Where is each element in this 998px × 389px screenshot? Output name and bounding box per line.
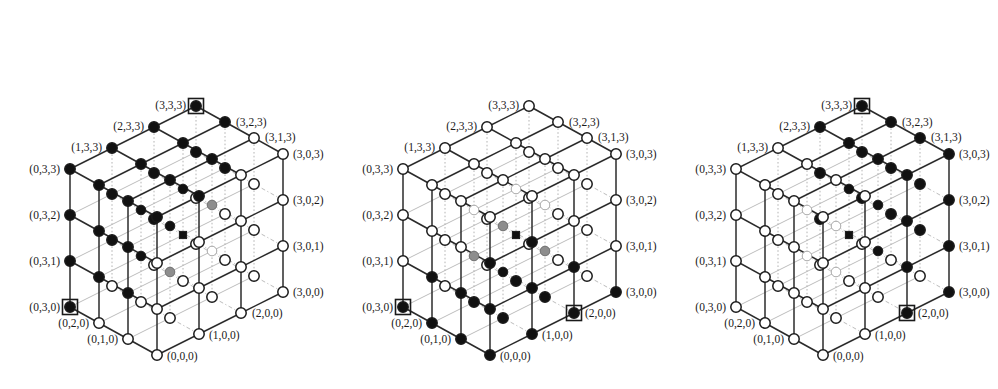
lattice-node <box>524 101 534 111</box>
lattice-node <box>398 302 408 312</box>
node-open-circle <box>456 242 466 252</box>
node-open-circle <box>569 170 579 180</box>
vertex-label: (0,3,0) <box>362 301 393 314</box>
lattice-node <box>789 242 799 252</box>
lattice-node <box>123 288 133 298</box>
node-open-circle <box>789 334 799 344</box>
lattice-edge-hidden <box>70 240 112 261</box>
lattice-node <box>152 350 162 360</box>
lattice-node <box>398 210 408 220</box>
node-filled-circle <box>815 122 825 132</box>
lattice-edge-hidden <box>432 256 474 277</box>
lattice-node <box>915 133 925 143</box>
lattice-node <box>427 226 437 236</box>
lattice-node <box>611 241 621 251</box>
vertex-label: (0,1,0) <box>420 333 451 346</box>
vertex-label: (3,3,3) <box>155 99 186 112</box>
lattice-edge <box>907 246 949 267</box>
lattice-node <box>440 235 450 245</box>
lattice-node <box>427 318 437 328</box>
lattice-node <box>860 237 870 247</box>
lattice-node <box>902 216 912 226</box>
lattice-node <box>498 175 508 185</box>
lattice-node <box>249 225 259 235</box>
lattice-node <box>249 179 259 189</box>
lattice-edge <box>212 138 254 159</box>
node-open-circle <box>860 283 870 293</box>
lattice-edge <box>241 246 283 267</box>
node-open-circle <box>511 138 521 148</box>
node-open-circle <box>94 318 104 328</box>
node-open-circle <box>194 329 204 339</box>
vertex-label: (3,0,1) <box>626 240 657 253</box>
node-filled-circle <box>498 313 508 323</box>
node-filled-circle <box>857 147 867 157</box>
node-filled-circle <box>191 101 201 111</box>
lattice-node <box>191 147 201 157</box>
node-open-circle <box>427 226 437 236</box>
lattice-node <box>456 196 466 206</box>
node-open-circle <box>178 276 188 286</box>
lattice-node <box>915 179 925 189</box>
vertex-label: (0,2,0) <box>58 317 89 330</box>
node-open-circle <box>802 251 812 261</box>
lattice-node <box>873 246 883 256</box>
node-open-circle <box>844 276 854 286</box>
lattice-edge <box>907 200 949 221</box>
node-square-marker <box>845 231 852 238</box>
node-shaded-circle <box>540 246 550 256</box>
node-filled-circle <box>456 334 466 344</box>
lattice-node <box>760 226 770 236</box>
lattice-node <box>149 168 159 178</box>
lattice-node <box>540 292 550 302</box>
lattice-node <box>220 209 230 219</box>
lattice-node <box>152 212 162 222</box>
lattice-node <box>236 262 246 272</box>
lattice-edge <box>241 154 283 175</box>
node-open-circle <box>236 308 246 318</box>
node-filled-circle <box>485 304 495 314</box>
node-open-circle <box>220 209 230 219</box>
node-open-circle <box>731 210 741 220</box>
lattice-node <box>582 133 592 143</box>
lattice-node <box>944 149 954 159</box>
node-open-circle <box>611 195 621 205</box>
vertex-label: (0,2,0) <box>724 317 755 330</box>
node-filled-circle <box>136 251 146 261</box>
lattice-edge <box>99 164 141 185</box>
lattice-node <box>236 216 246 226</box>
node-open-circle <box>582 133 592 143</box>
lattice-node <box>278 195 288 205</box>
lattice-node <box>398 164 408 174</box>
node-open-circle <box>278 241 288 251</box>
node-open-circle <box>860 329 870 339</box>
node-square-marker <box>512 231 519 238</box>
lattice-edge-hidden <box>765 302 807 323</box>
lattice-node <box>165 313 175 323</box>
lattice-node <box>831 175 841 185</box>
lattice-node <box>469 159 479 169</box>
lattice-node <box>191 101 201 111</box>
lattice-node <box>815 168 825 178</box>
lattice-node <box>512 231 519 238</box>
node-filled-circle <box>511 276 521 286</box>
lattice-panel-right: (3,3,3)(2,3,3)(1,3,3)(0,3,3)(0,3,2)(0,3,… <box>666 0 998 389</box>
node-open-circle <box>540 200 550 210</box>
node-open-circle <box>427 180 437 190</box>
node-open-circle <box>553 117 563 127</box>
lattice-node <box>107 281 117 291</box>
vertex-label: (0,0,0) <box>833 350 864 363</box>
node-open-circle <box>236 262 246 272</box>
lattice-node <box>482 168 492 178</box>
node-open-circle <box>802 297 812 307</box>
vertex-label: (0,3,1) <box>362 255 393 268</box>
lattice-node <box>207 292 217 302</box>
lattice-node <box>398 256 408 266</box>
figure-container: (3,3,3)(2,3,3)(1,3,3)(0,3,3)(0,3,2)(0,3,… <box>0 0 998 389</box>
node-filled-circle <box>944 241 954 251</box>
lattice-node <box>485 258 495 268</box>
node-open-circle <box>498 175 508 185</box>
lattice-node <box>456 334 466 344</box>
node-open-circle <box>152 304 162 314</box>
node-open-circle <box>482 168 492 178</box>
